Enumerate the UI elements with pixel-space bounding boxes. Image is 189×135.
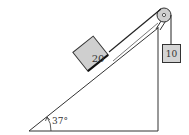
block-10-label: 10: [166, 49, 178, 59]
angle-label: 37°: [52, 116, 68, 126]
diagram-canvas: 20 10 37°: [0, 0, 189, 135]
rope-incline-lower: [113, 23, 158, 61]
pulley-axle: [162, 13, 165, 16]
block-20-label: 20: [92, 53, 105, 64]
rope-incline: [109, 9, 161, 52]
